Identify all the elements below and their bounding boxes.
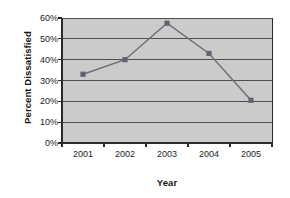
chart-figure: Percent Dissatisfied 60% 50% 40% 30% 20%… xyxy=(0,0,290,198)
plot-area xyxy=(0,0,290,198)
data-point-marker xyxy=(122,57,127,62)
data-point-marker xyxy=(248,98,253,103)
data-point-marker xyxy=(80,72,85,77)
data-point-marker xyxy=(164,21,169,26)
data-point-marker xyxy=(206,51,211,56)
